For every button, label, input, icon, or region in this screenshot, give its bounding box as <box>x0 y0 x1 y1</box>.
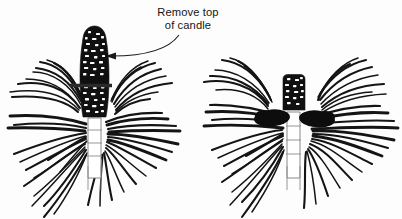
callout-line-2: of candle <box>165 19 211 31</box>
pine-candle <box>80 26 109 117</box>
callout-line-1: Remove top <box>157 6 218 18</box>
diagram-canvas: Remove top of candle <box>0 0 402 219</box>
pine-stem-after <box>286 112 301 190</box>
callout-label: Remove top of candle <box>157 6 218 31</box>
pine-candle-stub <box>283 75 305 111</box>
pine-pruning-illustration: Remove top of candle <box>0 0 402 219</box>
